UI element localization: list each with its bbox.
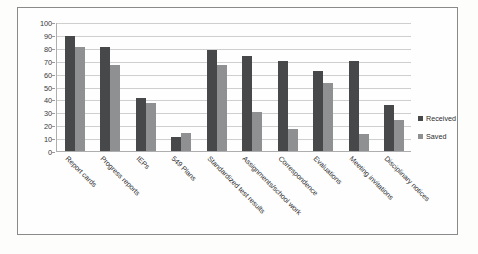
bar-received[interactable]: [242, 56, 252, 151]
y-axis-tick-label: 90: [44, 31, 52, 40]
y-axis-tick-mark: [52, 113, 55, 114]
x-axis-label: Report cards: [63, 154, 98, 189]
bar-saved[interactable]: [181, 133, 191, 151]
y-axis-tick-mark: [52, 62, 55, 63]
x-axis-label: Standardized test results: [205, 154, 266, 215]
bar-saved[interactable]: [75, 47, 85, 151]
y-axis-tick-mark: [52, 100, 55, 101]
y-axis-tick-mark: [52, 139, 55, 140]
bar-saved[interactable]: [110, 65, 120, 151]
y-axis-tick-label: 30: [44, 109, 52, 118]
bar-group[interactable]: [57, 23, 93, 151]
x-axis-label: 549 Plans: [170, 154, 199, 183]
bar-series-container: [57, 23, 411, 151]
bar-group[interactable]: [270, 23, 306, 151]
legend-item[interactable]: Saved: [418, 132, 470, 141]
y-axis-tick-label: 20: [44, 122, 52, 131]
y-axis: 1009080706050403020100: [18, 23, 52, 152]
bar-group[interactable]: [93, 23, 129, 151]
bar-received[interactable]: [384, 105, 394, 151]
y-axis-tick-label: 50: [44, 83, 52, 92]
bar-received[interactable]: [65, 36, 75, 151]
y-axis-tick-label: 40: [44, 96, 52, 105]
legend-swatch-icon: [418, 116, 423, 121]
bar-received[interactable]: [136, 98, 146, 151]
bar-saved[interactable]: [252, 112, 262, 151]
legend-label: Saved: [426, 132, 446, 141]
y-axis-tick-mark: [52, 23, 55, 24]
y-axis-tick-label: 80: [44, 44, 52, 53]
bar-saved[interactable]: [323, 83, 333, 151]
y-axis-tick-mark: [52, 88, 55, 89]
x-axis-category-labels: Report cardsProgress reportsIEPs549 Plan…: [56, 154, 411, 234]
bar-saved[interactable]: [394, 120, 404, 151]
bar-group[interactable]: [306, 23, 342, 151]
y-axis-tick-label: 70: [44, 57, 52, 66]
legend-item[interactable]: Received: [418, 114, 470, 123]
bar-saved[interactable]: [146, 103, 156, 151]
bar-received[interactable]: [313, 71, 323, 151]
bar-group[interactable]: [128, 23, 164, 151]
y-axis-tick-mark: [52, 36, 55, 37]
y-axis-tick-mark: [52, 75, 55, 76]
bar-saved[interactable]: [288, 129, 298, 151]
y-axis-tick-label: 10: [44, 135, 52, 144]
y-axis-tick-mark: [52, 126, 55, 127]
bar-received[interactable]: [171, 137, 181, 151]
y-axis-tick-mark: [52, 49, 55, 50]
bar-saved[interactable]: [359, 134, 369, 151]
x-axis-label: Evaluations: [312, 154, 344, 186]
x-axis-label: Assignments/school work: [241, 154, 304, 217]
bar-group[interactable]: [377, 23, 413, 151]
bar-received[interactable]: [349, 61, 359, 151]
legend-label: Received: [426, 114, 456, 123]
legend-swatch-icon: [418, 134, 423, 139]
scanned-page: 1009080706050403020100 Report cardsProgr…: [0, 0, 478, 254]
y-axis-tick-label: 100: [40, 19, 52, 28]
y-axis-tick-label: 60: [44, 70, 52, 79]
bar-group[interactable]: [199, 23, 235, 151]
bar-group[interactable]: [164, 23, 200, 151]
chart-legend: ReceivedSaved: [418, 114, 470, 150]
bar-received[interactable]: [278, 61, 288, 151]
x-axis-label: IEPs: [134, 154, 151, 171]
bar-received[interactable]: [100, 47, 110, 151]
bar-saved[interactable]: [217, 65, 227, 151]
y-axis-tick-mark: [52, 152, 55, 153]
chart-frame: 1009080706050403020100 Report cardsProgr…: [17, 7, 458, 235]
plot-area: [56, 23, 411, 152]
bar-group[interactable]: [235, 23, 271, 151]
bar-received[interactable]: [207, 50, 217, 151]
bar-group[interactable]: [341, 23, 377, 151]
